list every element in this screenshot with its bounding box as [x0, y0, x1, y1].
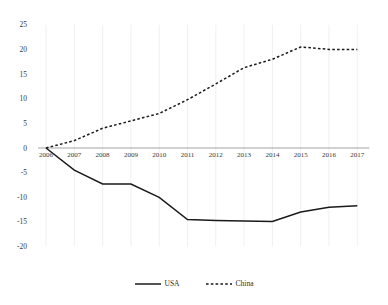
y-axis-tick-10: 10: [5, 94, 27, 103]
legend-item-usa[interactable]: USA: [135, 279, 180, 288]
series-line-china: [46, 47, 357, 148]
chart-legend: USA China: [0, 279, 388, 288]
vertical-gridlines: [46, 25, 357, 247]
legend-label-china: China: [236, 279, 254, 288]
x-axis-tick-2013: 2013: [229, 151, 259, 159]
x-axis-tick-2012: 2012: [201, 151, 231, 159]
legend-label-usa: USA: [165, 279, 180, 288]
x-axis-tick-2006: 2006: [31, 151, 61, 159]
legend-swatch-dashed-icon: [206, 281, 232, 287]
x-axis-tick-2009: 2009: [116, 151, 146, 159]
x-axis-tick-2008: 2008: [88, 151, 118, 159]
x-axis-tick-2007: 2007: [59, 151, 89, 159]
line-chart: 2520151050-5-10-15-20 200620072008200920…: [0, 0, 388, 305]
y-axis-tick-0: 0: [5, 144, 27, 153]
x-axis-tick-2017: 2017: [342, 151, 372, 159]
x-axis-tick-2010: 2010: [144, 151, 174, 159]
series-line-usa: [46, 148, 357, 221]
y-axis-tick-neg5: -5: [5, 168, 27, 177]
x-axis-tick-2015: 2015: [286, 151, 316, 159]
y-axis-tick-5: 5: [5, 119, 27, 128]
x-axis-tick-2011: 2011: [173, 151, 203, 159]
y-axis-tick-neg15: -15: [5, 217, 27, 226]
legend-item-china[interactable]: China: [206, 279, 254, 288]
x-axis-tick-2014: 2014: [257, 151, 287, 159]
y-axis-tick-15: 15: [5, 70, 27, 79]
y-axis-tick-neg10: -10: [5, 193, 27, 202]
y-axis-tick-20: 20: [5, 45, 27, 54]
y-axis-tick-neg20: -20: [5, 242, 27, 251]
y-axis-tick-25: 25: [5, 20, 27, 29]
legend-swatch-solid-icon: [135, 281, 161, 287]
x-axis-tick-2016: 2016: [314, 151, 344, 159]
